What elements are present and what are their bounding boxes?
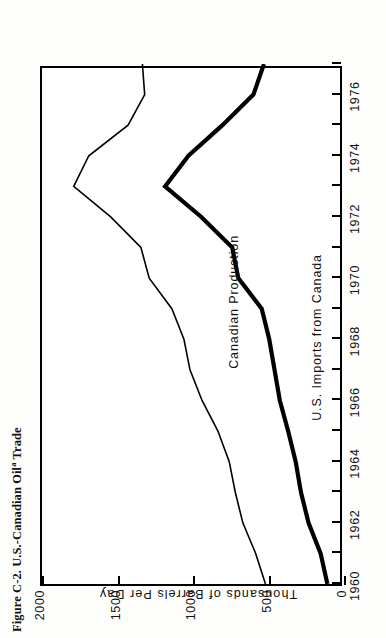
x-axis-tick [332,429,341,431]
series-line-us-imports [165,64,327,584]
x-axis-tick [332,184,341,186]
plot-canvas [42,68,340,584]
x-axis-tick [332,551,341,553]
figure-plate: Figure C-2. U.S.-Canadian Oila Trade 196… [0,0,386,638]
x-axis-tick [332,368,341,370]
figure-title-text: Figure C-2. U.S.-Canadian Oil [10,467,24,632]
plot-area [40,66,342,586]
x-axis-tick-label: 1976 [348,81,362,111]
x-axis-tick [332,460,341,462]
x-axis-tick-label: 1970 [348,265,362,295]
x-axis-tick-label: 1964 [348,449,362,479]
x-axis-tick-label: 1966 [348,387,362,417]
x-axis-tick [332,276,341,278]
y-axis-tick [118,576,120,585]
y-axis-tick [42,576,44,585]
x-axis-tick-label: 1960 [348,571,362,601]
y-axis-tick [344,576,346,585]
x-axis-tick-label: 1968 [348,326,362,356]
x-axis-tick-label: 1962 [348,510,362,540]
series-label-canadian-production: Canadian Production [227,235,241,369]
x-axis-tick [332,521,341,523]
x-axis-tick [332,582,341,584]
figure-title-footnote-marker: a [8,462,18,466]
x-axis-tick [332,307,341,309]
x-axis-tick [332,215,341,217]
chart-svg [42,64,344,584]
y-axis-tick-label: 2000 [33,590,47,624]
x-axis-tick-label: 1972 [348,204,362,234]
series-label-us-imports: U.S. Imports from Canada [310,254,324,421]
x-axis-tick [332,62,341,64]
x-axis-tick [332,93,341,95]
x-axis-tick [332,246,341,248]
x-axis-tick-label: 1974 [348,143,362,173]
y-axis-tick [269,576,271,585]
x-axis-tick [332,123,341,125]
figure-title-suffix: Trade [10,427,24,462]
y-axis-tick [193,576,195,585]
x-axis-tick [332,490,341,492]
figure-title: Figure C-2. U.S.-Canadian Oila Trade [8,427,25,632]
x-axis-tick [332,154,341,156]
x-axis-tick [332,337,341,339]
y-axis-title: Thousands of Barrels Per Day [48,587,348,601]
x-axis-tick [332,398,341,400]
